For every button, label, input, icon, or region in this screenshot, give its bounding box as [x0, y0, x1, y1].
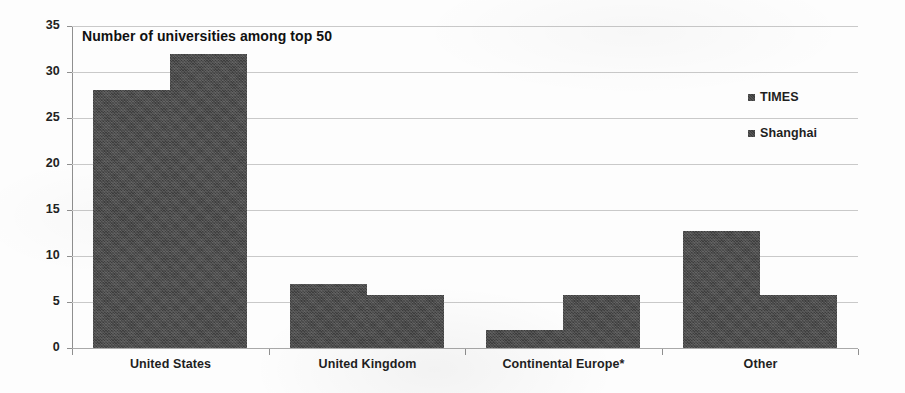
- bar-shanghai-2: [563, 295, 640, 348]
- legend-item-shanghai: Shanghai: [748, 126, 817, 140]
- chart-title: Number of universities among top 50: [82, 28, 332, 44]
- x-axis-tick: [465, 349, 466, 355]
- y-tick-label: 0: [20, 340, 60, 354]
- chart-legend: TIMES Shanghai: [748, 90, 817, 162]
- x-axis-tick: [858, 349, 859, 355]
- legend-label: Shanghai: [760, 126, 817, 140]
- y-tick-label: 15: [20, 202, 60, 216]
- y-tick-label: 10: [20, 248, 60, 262]
- bar-chart: 35302520151050 United StatesUnited Kingd…: [0, 0, 905, 393]
- bar-times-3: [683, 231, 760, 348]
- legend-label: TIMES: [760, 90, 799, 104]
- legend-swatch-icon: [748, 94, 755, 101]
- legend-item-times: TIMES: [748, 90, 817, 104]
- y-tick-label: 20: [20, 156, 60, 170]
- y-tick-label: 25: [20, 110, 60, 124]
- bar-shanghai-3: [760, 295, 837, 348]
- y-tick-label: 35: [20, 18, 60, 32]
- bar-shanghai-0: [170, 54, 247, 348]
- plot-area: [72, 26, 858, 348]
- category-label-0: United States: [72, 357, 269, 371]
- y-tick-label: 30: [20, 64, 60, 78]
- y-tick-label: 5: [20, 294, 60, 308]
- legend-swatch-icon: [748, 130, 755, 137]
- bar-times-0: [93, 90, 170, 348]
- x-axis-tick: [269, 349, 270, 355]
- category-label-3: Other: [662, 357, 859, 371]
- category-label-2: Continental Europe*: [465, 357, 662, 371]
- category-label-1: United Kingdom: [269, 357, 466, 371]
- bar-times-2: [486, 330, 563, 348]
- x-axis-tick: [72, 349, 73, 355]
- x-axis-tick: [662, 349, 663, 355]
- bar-times-1: [290, 284, 367, 348]
- bar-shanghai-1: [367, 295, 444, 348]
